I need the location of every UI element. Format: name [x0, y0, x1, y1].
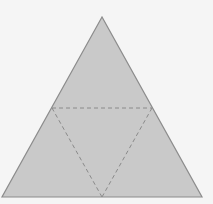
- diagram-canvas: [0, 0, 213, 204]
- outer-triangle: [2, 17, 202, 197]
- tetrahedron-net-diagram: [0, 0, 213, 204]
